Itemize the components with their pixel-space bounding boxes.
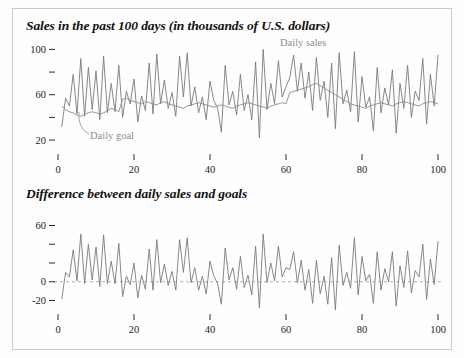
panel-difference: Difference between daily sales and goals…	[12, 180, 452, 350]
panel-sales-vs-goal: Sales in the past 100 days (in thousands…	[12, 8, 452, 180]
series-line-daily-sales	[62, 49, 438, 137]
x-axis-tick-label: 40	[205, 164, 216, 175]
annotation-daily-sales: Daily sales	[280, 37, 326, 48]
x-axis-tick-label: 0	[55, 164, 60, 175]
y-axis-tick-label: 60	[36, 89, 47, 100]
x-axis-tick-label: 100	[430, 164, 446, 175]
x-axis-tick-label: 80	[357, 324, 368, 335]
figure-root: Sales in the past 100 days (in thousands…	[0, 0, 464, 358]
x-axis-tick-label: 20	[129, 164, 140, 175]
x-axis-tick-label: 80	[357, 164, 368, 175]
y-axis-tick-label: 60	[36, 220, 47, 231]
y-axis-tick-label: 0	[41, 276, 46, 287]
x-axis-tick-label: 20	[129, 324, 140, 335]
series-line-sales-minus-goal	[62, 234, 438, 310]
annotation-daily-goal: Daily goal	[90, 130, 134, 141]
y-axis-tick-label: 100	[30, 44, 46, 55]
daily-goal-leader-line	[79, 112, 89, 134]
x-axis-tick-label: 0	[55, 324, 60, 335]
x-axis-tick-label: 100	[430, 324, 446, 335]
y-axis-tick-label: 20	[36, 135, 47, 146]
x-axis-tick-label: 40	[205, 324, 216, 335]
difference-chart: -20060020406080100	[12, 180, 452, 350]
x-axis-tick-label: 60	[281, 324, 292, 335]
y-axis-tick-label: -20	[32, 295, 46, 306]
x-axis-tick-label: 60	[281, 164, 292, 175]
sales-vs-goal-chart: 2060100020406080100Daily salesDaily goal	[12, 8, 452, 180]
